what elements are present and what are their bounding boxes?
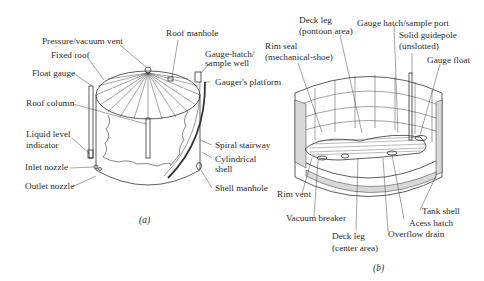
label-shell-manhole: Shell manhole xyxy=(215,183,268,194)
label-gauge-hatch-line2: sample well xyxy=(205,58,249,69)
label-spiral-stairway: Spiral stairway xyxy=(215,140,270,151)
label-fixed-roof: Fixed roof xyxy=(51,50,90,61)
label-float-gauge: Float gauge xyxy=(32,68,75,79)
caption-b: (b) xyxy=(373,263,384,273)
label-cylindrical-shell-line2: shell xyxy=(215,164,232,175)
label-roof-column: Roof column xyxy=(26,98,74,109)
label-gauge-float: Gauge float xyxy=(427,55,470,66)
label-deck-leg-center-line2: (center area) xyxy=(332,243,378,254)
label-tank-shell: Tank shell xyxy=(422,206,460,217)
fixed-roof-tank xyxy=(70,40,212,188)
label-roof-manhole: Roof manhole xyxy=(166,28,218,39)
label-solid-guidepole-line1: Solid guidepole xyxy=(399,30,457,41)
label-vacuum-breaker: Vacuum breaker xyxy=(286,213,346,224)
label-solid-guidepole-line2: (unslotted) xyxy=(399,41,439,52)
label-deck-leg-center-line1: Deck leg xyxy=(332,231,365,242)
label-rim-seal-line2: (mechanical-shoe) xyxy=(265,52,333,63)
label-rim-vent: Rim vent xyxy=(277,189,311,200)
label-gaugers-platform: Gauger's platform xyxy=(215,77,281,88)
label-deck-leg-pontoon-line1: Deck leg xyxy=(299,15,332,26)
label-liquid-level-line2: indicator xyxy=(26,140,59,151)
label-deck-leg-pontoon-line2: (pontoon area) xyxy=(299,26,353,37)
label-overflow-drain: Overflow drain xyxy=(388,229,444,240)
label-pressure-vacuum-vent: Pressure/vacuum vent xyxy=(42,36,123,47)
label-gauge-hatch-sample-port: Gauge hatch/sample port xyxy=(357,18,449,29)
caption-a: (a) xyxy=(139,215,150,225)
label-acess-hatch: Acess hatch xyxy=(409,218,453,229)
label-outlet-nozzle: Outlet nozzle xyxy=(25,181,74,192)
label-inlet-nozzle: Inlet nozzle xyxy=(25,162,68,173)
label-rim-seal-line1: Rim seal xyxy=(265,41,297,52)
label-liquid-level-line1: Liquid level xyxy=(26,129,71,140)
